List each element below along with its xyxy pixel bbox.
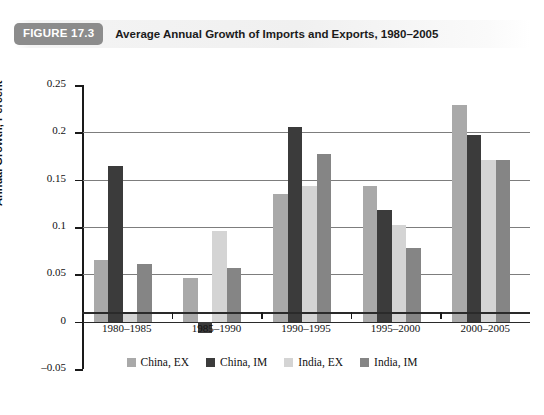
bar bbox=[363, 186, 378, 321]
x-tick-label: 2000–2005 bbox=[430, 322, 540, 334]
bar-chart: Annual Growth, Percent 0.250.20.150.10.0… bbox=[0, 56, 544, 415]
bar bbox=[183, 278, 198, 322]
x-axis-line bbox=[82, 312, 530, 314]
y-tick-mark bbox=[75, 274, 83, 276]
legend-item: India, EX bbox=[284, 356, 343, 368]
x-tick-mark bbox=[261, 312, 263, 319]
bar bbox=[288, 127, 303, 322]
chart-legend: China, EXChina, IMIndia, EXIndia, IM bbox=[0, 356, 544, 368]
legend-label: India, EX bbox=[298, 356, 343, 368]
bar bbox=[467, 135, 482, 322]
bar bbox=[302, 186, 317, 321]
bar bbox=[212, 231, 227, 322]
legend-label: India, IM bbox=[374, 356, 417, 368]
y-tick-label: 0.05 bbox=[8, 266, 66, 278]
figure-number-badge: FIGURE 17.3 bbox=[14, 23, 103, 46]
bar bbox=[392, 225, 407, 322]
legend-swatch-icon bbox=[360, 358, 369, 367]
y-tick-label: 0.15 bbox=[8, 172, 66, 184]
y-tick-label: 0.25 bbox=[8, 77, 66, 89]
legend-swatch-icon bbox=[206, 358, 215, 367]
x-tick-mark bbox=[440, 312, 442, 319]
bar bbox=[377, 210, 392, 322]
y-tick-mark bbox=[75, 132, 83, 134]
legend-item: China, IM bbox=[206, 356, 267, 368]
y-tick-label: 0.2 bbox=[8, 124, 66, 136]
y-axis-label: Annual Growth, Percent bbox=[0, 81, 4, 206]
legend-label: China, EX bbox=[141, 356, 190, 368]
y-tick-mark bbox=[75, 369, 83, 371]
bar bbox=[227, 268, 242, 322]
legend-item: India, IM bbox=[360, 356, 417, 368]
figure-title: Average Annual Growth of Imports and Exp… bbox=[115, 28, 438, 40]
bar bbox=[406, 248, 421, 322]
legend-swatch-icon bbox=[284, 358, 293, 367]
bar bbox=[273, 194, 288, 322]
bar bbox=[481, 160, 496, 322]
bar bbox=[452, 105, 467, 322]
legend-swatch-icon bbox=[127, 358, 136, 367]
y-tick-mark bbox=[75, 180, 83, 182]
y-tick-label: 0 bbox=[8, 314, 66, 326]
legend-item: China, EX bbox=[127, 356, 190, 368]
y-tick-label: 0.1 bbox=[8, 219, 66, 231]
legend-label: China, IM bbox=[220, 356, 267, 368]
bar bbox=[108, 166, 123, 321]
y-tick-mark bbox=[75, 227, 83, 229]
x-tick-mark bbox=[351, 312, 353, 319]
bar bbox=[496, 160, 511, 322]
figure-header: FIGURE 17.3 Average Annual Growth of Imp… bbox=[14, 20, 530, 48]
y-tick-mark bbox=[75, 85, 83, 87]
bar bbox=[123, 314, 138, 322]
bar bbox=[317, 154, 332, 322]
x-tick-mark bbox=[172, 312, 174, 319]
